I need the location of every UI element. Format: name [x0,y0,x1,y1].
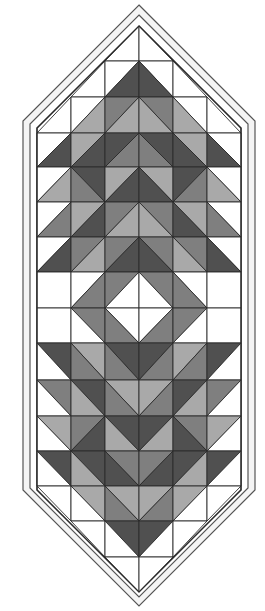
patch-cell [71,451,105,486]
patch-cell [139,272,173,308]
patch-cell [139,237,173,272]
patch-cell [173,272,207,308]
patch-cell [105,308,139,343]
patch-cell [173,97,207,133]
patch-cell [207,272,241,308]
patch-cell [71,416,105,451]
patch-cell [139,486,173,521]
patch-cell [37,416,71,451]
patch-cell [71,133,105,167]
patch-cell [71,343,105,380]
patch-cell [139,343,173,380]
patch-cell [207,237,241,272]
patch-cell [173,237,207,272]
patchwork-cells [37,26,241,592]
patch-cell [105,133,139,167]
patch-cell [139,97,173,133]
patch-cell [105,380,139,416]
patch-cell [71,97,105,133]
patch-cell [207,451,241,486]
patch-cell [37,343,71,380]
patch-cell [139,380,173,416]
patch-cell [139,167,173,202]
patch-cell [37,272,71,308]
white-triangle [37,308,71,343]
patch-cell [105,272,139,308]
patch-cell [71,380,105,416]
patch-cell [71,486,105,521]
patch-cell [139,451,173,486]
patch-cell [173,167,207,202]
patch-cell [207,308,241,343]
patch-cell [173,133,207,167]
patch-cell [173,416,207,451]
patch-cell [71,202,105,237]
patch-cell [173,486,207,521]
quilt-diagram [0,0,265,611]
patch-cell [173,380,207,416]
patch-cell [71,272,105,308]
patch-cell [139,61,173,97]
patch-cell [37,167,71,202]
quilt-runner-svg [0,0,265,611]
patch-cell [139,416,173,451]
patch-cell [37,202,71,237]
patch-cell [71,308,105,343]
patch-cell [37,237,71,272]
patch-cell [37,308,71,343]
white-triangle [37,272,71,308]
patch-cell [173,451,207,486]
patch-cell [207,380,241,416]
patch-cell [105,202,139,237]
patch-cell [207,416,241,451]
patch-cell [105,61,139,97]
patch-cell [105,521,139,557]
patch-cell [37,380,71,416]
patch-cell [37,133,71,167]
patch-cell [139,133,173,167]
patch-cell [71,237,105,272]
patch-cell [173,202,207,237]
patch-cell [37,451,71,486]
patch-cell [207,167,241,202]
patch-cell [207,133,241,167]
patch-cell [139,521,173,557]
patch-cell [173,343,207,380]
white-triangle [207,272,241,308]
patch-cell [173,308,207,343]
patch-cell [71,167,105,202]
patch-cell [105,343,139,380]
patch-cell [105,167,139,202]
patch-cell [139,308,173,343]
patch-cell [207,202,241,237]
patch-cell [207,343,241,380]
patch-cell [139,202,173,237]
white-triangle [207,308,241,343]
patch-cell [105,486,139,521]
patch-cell [105,451,139,486]
patch-cell [105,237,139,272]
patch-cell [105,416,139,451]
patch-cell [105,97,139,133]
